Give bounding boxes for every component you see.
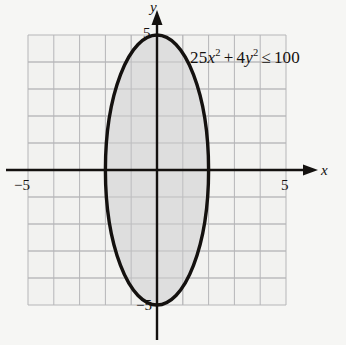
equation-relation: ≤ <box>261 48 271 67</box>
equation-plus: + <box>224 48 234 67</box>
equation-var-x: x <box>207 48 215 67</box>
x-axis-arrowhead <box>303 165 318 176</box>
equation-constant: 100 <box>274 48 300 67</box>
equation-exp-x: 2 <box>215 47 220 58</box>
x-axis-label: x <box>321 163 328 178</box>
inequality-graph-figure: 25x2+4y2≤100 −5 5 5 −5 x y <box>0 0 346 345</box>
y-tick-label-positive-5: 5 <box>143 26 151 41</box>
y-tick-label-negative-5: −5 <box>136 298 152 313</box>
equation-coef-x: 25 <box>190 48 207 67</box>
x-tick-label-positive-5: 5 <box>281 178 289 193</box>
x-tick-label-negative-5: −5 <box>14 178 30 193</box>
equation-var-y: y <box>245 48 253 67</box>
y-axis-label: y <box>150 0 157 15</box>
equation-annotation: 25x2+4y2≤100 <box>190 48 300 68</box>
equation-exp-y: 2 <box>253 47 258 58</box>
equation-coef-y: 4 <box>236 48 245 67</box>
